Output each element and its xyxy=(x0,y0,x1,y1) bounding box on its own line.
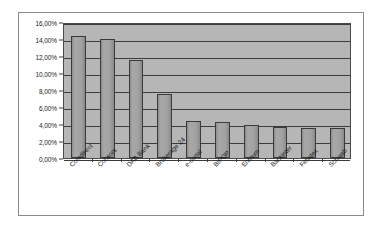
chart-frame: 16,00% 14,00% 12,00% 10,00% 8,00% 6,00% … xyxy=(18,12,364,216)
bar xyxy=(71,36,86,158)
y-tick-label: 8,00% xyxy=(39,88,57,95)
y-tick-label: 12,00% xyxy=(36,54,57,61)
y-tick-label: 16,00% xyxy=(36,20,57,27)
bar xyxy=(100,39,115,158)
y-tick-label: 0,00% xyxy=(39,156,57,163)
x-tick-mark xyxy=(293,159,294,162)
plot-area xyxy=(63,23,351,159)
x-tick-mark xyxy=(265,159,266,162)
x-tick-mark xyxy=(207,159,208,162)
x-tick-mark xyxy=(121,159,122,162)
y-tick-label: 14,00% xyxy=(36,37,57,44)
x-axis: ComdirectConsorsDAB BankBrokerage 24e-co… xyxy=(63,163,363,215)
y-tick-label: 4,00% xyxy=(39,122,57,129)
bar xyxy=(129,60,144,158)
x-tick-mark xyxy=(236,159,237,162)
x-tick-mark xyxy=(149,159,150,162)
y-tick-label: 6,00% xyxy=(39,105,57,112)
y-axis: 16,00% 14,00% 12,00% 10,00% 8,00% 6,00% … xyxy=(19,23,63,159)
x-tick-mark xyxy=(92,159,93,162)
x-tick-mark xyxy=(322,159,323,162)
x-tick-mark xyxy=(178,159,179,162)
y-tick-label: 10,00% xyxy=(36,71,57,78)
bar-series xyxy=(64,24,350,158)
y-tick-label: 2,00% xyxy=(39,139,57,146)
